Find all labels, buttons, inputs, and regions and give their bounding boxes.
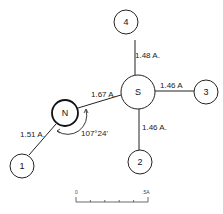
bond-length-s-2: 1.46 A. xyxy=(142,123,167,132)
atom-3-label: 3 xyxy=(203,87,208,97)
atom-2-label: 2 xyxy=(137,157,142,167)
molecular-structure-diagram: 4 S 3 2 N 1 1.48 A. 1.46 A 1.46 A. 1.67 … xyxy=(0,0,223,214)
atom-2: 2 xyxy=(128,150,152,174)
bond-n-1 xyxy=(29,124,56,155)
bond-length-s-4: 1.48 A. xyxy=(135,51,160,60)
atom-s: S xyxy=(121,75,155,109)
scale-start-label: 0 xyxy=(75,189,78,195)
atom-s-label: S xyxy=(135,87,141,97)
bond-length-s-n: 1.67 A. xyxy=(91,90,116,99)
atom-1-label: 1 xyxy=(19,161,24,171)
scale-bar: 0 .5A xyxy=(75,189,150,202)
atom-3: 3 xyxy=(194,80,218,104)
atom-n-label: N xyxy=(62,108,69,118)
atom-4-label: 4 xyxy=(123,17,128,27)
bond-length-s-3: 1.46 A xyxy=(160,81,183,90)
atom-4: 4 xyxy=(114,10,138,34)
angle-arrow-icon xyxy=(57,129,60,133)
bond-angle-label: 107°24' xyxy=(81,129,108,138)
bond-length-n-1: 1.51 A. xyxy=(20,130,45,139)
scale-end-label: .5A xyxy=(142,189,150,195)
atom-n: N xyxy=(52,100,78,126)
atom-1: 1 xyxy=(10,154,34,178)
